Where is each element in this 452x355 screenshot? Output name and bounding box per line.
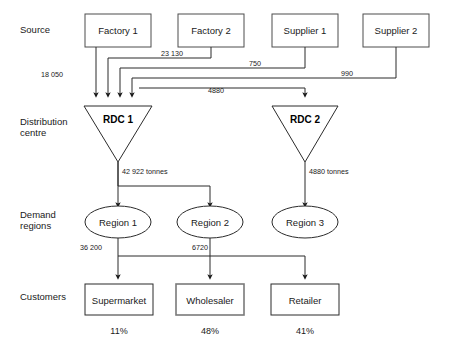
- diagram-canvas: Source Distribution centre Demand region…: [0, 0, 452, 355]
- node-supermarket-label: Supermarket: [92, 295, 147, 306]
- supply-chain-diagram: Source Distribution centre Demand region…: [0, 0, 452, 355]
- node-region-1-label: Region 1: [99, 217, 137, 228]
- percent-wholesaler: 48%: [201, 326, 219, 336]
- node-retailer-label: Retailer: [289, 295, 322, 306]
- flow-label-supplier2-to-rdc1: 990: [341, 69, 353, 78]
- flow-label-region1-out: 36 200: [80, 243, 102, 252]
- row-label-demand-regions-line2: regions: [20, 220, 51, 231]
- node-factory-2-label: Factory 2: [191, 25, 231, 36]
- flow-label-to-rdc2: 4880: [208, 86, 224, 95]
- flow-label-region2-out: 6720: [192, 243, 208, 252]
- node-wholesaler-label: Wholesaler: [186, 295, 234, 306]
- row-label-source: Source: [20, 24, 50, 35]
- node-factory-1-label: Factory 1: [98, 25, 138, 36]
- node-supplier-2-label: Supplier 2: [375, 25, 418, 36]
- row-label-distribution-centre-line1: Distribution: [20, 116, 68, 127]
- row-label-customers: Customers: [20, 291, 66, 302]
- row-label-demand-regions-line1: Demand: [20, 209, 56, 220]
- row-label-distribution-centre-line2: centre: [20, 127, 46, 138]
- flow-region1-bus: [118, 238, 305, 256]
- flow-label-rdc1-out: 42 922 tonnes: [122, 167, 168, 176]
- node-rdc-2-label: RDC 2: [290, 114, 320, 125]
- flow-label-rdc2-out: 4880 tonnes: [309, 167, 349, 176]
- node-region-2-label: Region 2: [191, 217, 229, 228]
- node-rdc-1-label: RDC 1: [103, 114, 133, 125]
- percent-retailer: 41%: [296, 326, 314, 336]
- flow-label-factory1-to-rdc1: 18 050: [41, 70, 63, 79]
- flow-label-supplier1-to-rdc1: 750: [249, 59, 261, 68]
- percent-supermarket: 11%: [110, 326, 127, 336]
- node-region-3-label: Region 3: [286, 217, 324, 228]
- node-supplier-1-label: Supplier 1: [284, 25, 327, 36]
- flow-label-factory2-to-rdc1: 23 130: [161, 49, 183, 58]
